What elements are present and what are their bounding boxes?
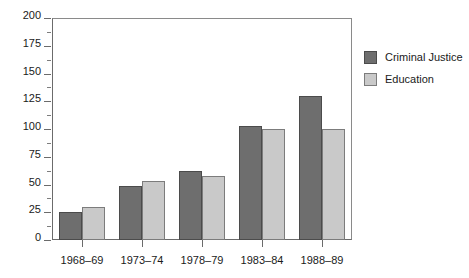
x-axis-tick-label: 1983–84 — [241, 254, 284, 266]
x-axis-tick-mark — [322, 240, 323, 247]
bar-criminal-justice — [299, 96, 322, 240]
y-axis-minor-tick-mark — [47, 198, 51, 199]
bar-education — [142, 181, 165, 240]
bar-education — [202, 176, 225, 240]
x-axis-tick-mark — [142, 240, 143, 247]
x-axis-tick-mark — [262, 240, 263, 247]
x-axis: 1968–691973–741978–791983–841988–89 — [52, 240, 352, 278]
x-axis-tick-mark — [202, 240, 203, 247]
bar-chart: 0255075100125150175200 1968–691973–74197… — [0, 0, 469, 278]
legend-item: Education — [364, 68, 469, 90]
y-axis-minor-tick-mark — [47, 143, 51, 144]
legend-swatch-icon — [364, 51, 377, 64]
y-axis-tick-label: 200 — [23, 10, 41, 21]
x-axis-tick-label: 1988–89 — [301, 254, 344, 266]
legend-item-label: Education — [385, 73, 434, 85]
bar-education — [322, 129, 345, 240]
y-axis-tick-label: 25 — [29, 204, 41, 215]
bar-criminal-justice — [179, 171, 202, 240]
x-axis-tick-label: 1978–79 — [181, 254, 224, 266]
bar-criminal-justice — [119, 186, 142, 240]
y-axis-tick-label: 0 — [35, 232, 41, 243]
y-axis-tick-label: 150 — [23, 66, 41, 77]
x-axis-tick-label: 1973–74 — [121, 254, 164, 266]
legend-item-label: Criminal Justice — [385, 51, 463, 63]
y-axis-tick-label: 75 — [29, 149, 41, 160]
y-axis-minor-tick-mark — [47, 32, 51, 33]
bars-layer — [52, 18, 352, 240]
y-axis-tick-mark — [44, 157, 51, 158]
y-axis-minor-tick-mark — [47, 115, 51, 116]
y-axis-tick-label: 50 — [29, 177, 41, 188]
y-axis-tick-mark — [44, 129, 51, 130]
bar-criminal-justice — [59, 212, 82, 240]
y-axis-tick-mark — [44, 212, 51, 213]
bar-education — [262, 129, 285, 240]
y-axis-minor-tick-mark — [47, 87, 51, 88]
y-axis-tick-mark — [44, 240, 51, 241]
x-axis-tick-label: 1968–69 — [61, 254, 104, 266]
y-axis-tick-mark — [44, 185, 51, 186]
y-axis-tick-mark — [44, 18, 51, 19]
bar-criminal-justice — [239, 126, 262, 240]
y-axis-tick-label: 100 — [23, 121, 41, 132]
y-axis-minor-tick-mark — [47, 171, 51, 172]
legend-item: Criminal Justice — [364, 46, 469, 68]
y-axis-tick-label: 175 — [23, 38, 41, 49]
legend-swatch-icon — [364, 73, 377, 86]
bar-education — [82, 207, 105, 240]
y-axis-tick-mark — [44, 74, 51, 75]
y-axis-minor-tick-mark — [47, 226, 51, 227]
y-axis-tick-label: 125 — [23, 93, 41, 104]
x-axis-tick-mark — [82, 240, 83, 247]
y-axis-tick-mark — [44, 101, 51, 102]
y-axis-tick-mark — [44, 46, 51, 47]
y-axis: 0255075100125150175200 — [0, 0, 52, 278]
y-axis-minor-tick-mark — [47, 60, 51, 61]
chart-legend: Criminal JusticeEducation — [364, 46, 469, 90]
